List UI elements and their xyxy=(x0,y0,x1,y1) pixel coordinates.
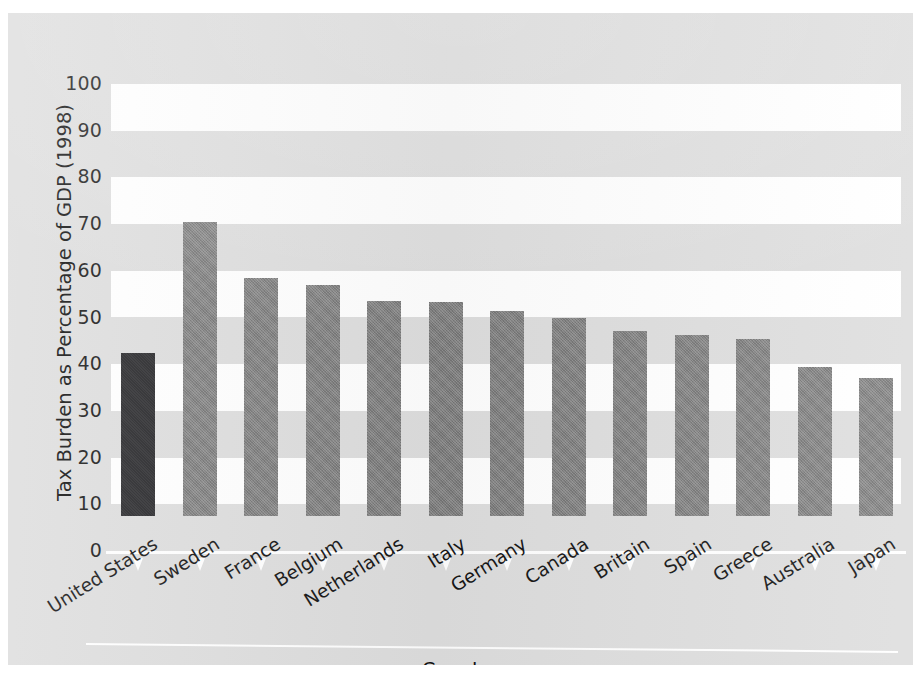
y-tick-10: 10 xyxy=(44,494,102,513)
bar-united-states xyxy=(121,353,155,516)
figure-root: Tax Burden as Percentage of GDP (1998) 1… xyxy=(0,0,920,700)
page-margin-right xyxy=(913,0,920,700)
y-tick-90: 90 xyxy=(44,121,102,140)
y-tick-50: 50 xyxy=(44,308,102,327)
x-axis-title-rule xyxy=(86,643,898,653)
bar-series xyxy=(111,49,901,521)
y-tick-30: 30 xyxy=(44,401,102,420)
y-tick-20: 20 xyxy=(44,448,102,467)
x-axis-category-labels: United StatesSwedenFranceBelgiumNetherla… xyxy=(111,533,911,633)
y-tick-100: 100 xyxy=(44,74,102,93)
plot-area xyxy=(111,49,901,526)
y-tick-40: 40 xyxy=(44,354,102,373)
y-tick-70: 70 xyxy=(44,214,102,233)
y-tick-60: 60 xyxy=(44,261,102,280)
x-axis-title: Country xyxy=(8,658,913,665)
bar-netherlands xyxy=(367,301,401,516)
x-label-text: Italy xyxy=(423,533,468,572)
bar-italy xyxy=(429,302,463,516)
y-axis-tick-labels: 1009080706050403020100 xyxy=(40,49,102,526)
y-tick-0: 0 xyxy=(44,541,102,560)
bar-spain xyxy=(675,335,709,516)
bar-canada xyxy=(552,318,586,516)
page-margin-top xyxy=(0,0,920,13)
y-tick-80: 80 xyxy=(44,167,102,186)
bar-australia xyxy=(798,367,832,516)
page-margin-bottom xyxy=(0,665,920,700)
bar-greece xyxy=(736,339,770,516)
bar-sweden xyxy=(183,222,217,516)
chart-panel: Tax Burden as Percentage of GDP (1998) 1… xyxy=(8,13,913,665)
bar-belgium xyxy=(306,285,340,516)
page-margin-left xyxy=(0,0,8,700)
bar-britain xyxy=(613,331,647,516)
